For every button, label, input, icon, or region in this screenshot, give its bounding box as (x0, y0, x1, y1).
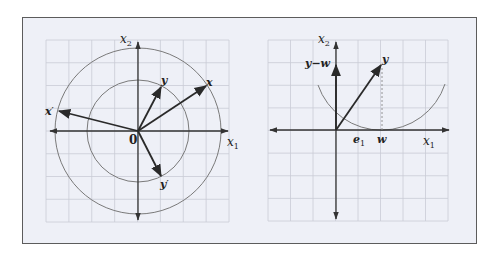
vector-x-prime (59, 111, 138, 131)
right-panel: x2 x1 y y−w e1 w (268, 32, 449, 221)
left-x1-label: x1 (227, 135, 239, 151)
vector-y-right (336, 65, 381, 130)
right-x2-label: x2 (318, 32, 330, 48)
vector-y-prime-label: y′ (159, 177, 169, 191)
vector-x-label: x (205, 76, 213, 89)
reflection-arc (318, 84, 445, 130)
vector-x-prime-label: x′ (44, 104, 55, 118)
e1-label: e1 (353, 133, 365, 148)
w-label: w (377, 133, 387, 146)
vector-y-label: y (160, 74, 169, 87)
y-minus-w-label: y−w (304, 57, 331, 70)
right-x1-label: x1 (423, 134, 435, 150)
left-x2-label: x2 (120, 32, 132, 48)
origin-label: 0 (129, 133, 137, 147)
vector-y-right-label: y (381, 53, 390, 66)
left-panel: x2 x1 0 x y x′ y′ (44, 32, 239, 222)
figure-canvas: x2 x1 0 x y x′ y′ x2 x1 y y−w e1 w (0, 0, 501, 258)
